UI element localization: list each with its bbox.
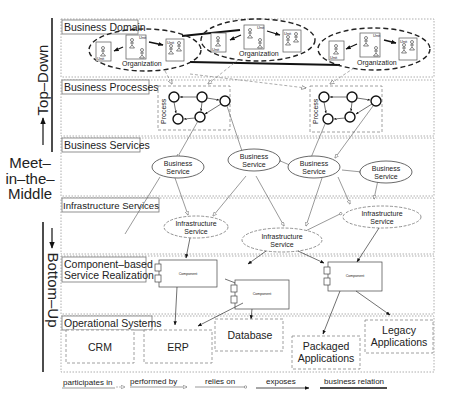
svg-text:Unit: Unit [400,39,408,44]
svg-text:Unit: Unit [373,33,381,38]
svg-text:Component: Component [346,274,365,278]
svg-text:Component: Component [253,292,272,296]
business-service-2: Business Service [228,149,280,171]
meet-in-middle-label-3: Middle [8,185,52,202]
layer-title-component-line2: Service Realization [64,269,154,281]
process-2: Process [310,86,382,132]
svg-text:Service: Service [302,168,325,175]
process-1: Process [158,86,230,130]
svg-text:Service: Service [242,161,265,168]
performed-by-edges [177,106,373,160]
svg-text:Service: Service [374,173,397,180]
svg-text:Service: Service [370,218,393,225]
svg-text:business relation: business relation [324,377,384,386]
infrastructure-service-2: Infrastructure Service [242,228,322,252]
svg-text:Unit: Unit [97,56,105,61]
svg-text:Business: Business [372,165,401,172]
svg-text:ERP: ERP [167,341,189,353]
svg-text:participates in: participates in [63,378,112,387]
svg-text:Unit: Unit [139,35,147,40]
component-1: Component [155,260,217,287]
infrastructure-services: Infrastructure Service Infrastructure Se… [164,206,421,252]
component-3: Component [324,262,382,291]
svg-text:Infrastructure: Infrastructure [175,220,216,227]
svg-text:Unit: Unit [330,55,338,60]
svg-text:Process: Process [160,98,167,124]
svg-text:relies on: relies on [205,377,235,386]
svg-text:Infrastructure: Infrastructure [261,233,302,240]
svg-text:Legacy: Legacy [382,324,417,336]
system-packaged-applications: Packaged Applications [292,336,360,369]
top-down-label: Top–Down [34,45,51,116]
svg-text:exposes: exposes [266,377,296,386]
legend-business-relation: business relation [320,377,387,388]
meet-in-middle-label-1: Meet– [9,154,51,171]
legend-participates-in: participates in [62,378,125,388]
svg-text:CRM: CRM [88,341,112,353]
organization-label: Organization [357,59,397,67]
svg-text:Service: Service [166,168,189,175]
organization-label: Organization [122,60,162,68]
svg-text:Service: Service [270,241,293,248]
svg-text:Applications: Applications [298,352,355,364]
architecture-diagram: Top–Down Meet– in–the– Middle Bottom–Up [0,0,453,404]
business-service-3: Business Service [288,156,340,178]
svg-text:Unit: Unit [257,25,265,30]
layer-title-operational-systems: Operational Systems [64,317,161,329]
svg-text:Service: Service [184,228,207,235]
svg-text:Database: Database [228,329,273,341]
svg-text:Business: Business [164,160,193,167]
layer-title-business-processes: Business Processes [64,81,159,93]
legend-performed-by: performed by [130,377,187,387]
svg-text:Business: Business [240,153,269,160]
layer-title-business-services: Business Services [64,139,150,151]
side-axis: Top–Down Meet– in–the– Middle Bottom–Up [5,18,62,372]
bottom-up-label: Bottom–Up [45,252,62,327]
legend-exposes: exposes [256,377,309,388]
system-erp: ERP [144,330,212,363]
organization-label: Organization [239,50,279,58]
infrastructure-service-3: Infrastructure Service [343,206,421,228]
organization-2: Unit Unit Unit Organization [201,19,315,61]
business-services: Business Service Business Service Busine… [152,149,412,183]
svg-text:Infrastructure: Infrastructure [361,210,402,217]
layer-title-business-domain: Business Domain [64,21,146,33]
svg-text:Applications: Applications [371,336,428,348]
organization-3: Unit Unit Unit Organization [318,28,430,70]
system-crm: CRM [66,330,134,363]
business-service-1: Business Service [152,156,204,178]
legend-relies-on: relies on [195,377,247,387]
svg-text:Unit: Unit [284,31,292,36]
infrastructure-service-1: Infrastructure Service [164,216,228,238]
svg-text:Unit: Unit [212,47,220,52]
svg-text:Unit: Unit [167,40,175,45]
business-service-4: Business Service [360,161,412,183]
svg-text:Packaged: Packaged [303,340,350,352]
svg-text:Business: Business [300,160,329,167]
svg-text:Component: Component [179,272,198,276]
system-database: Database [215,319,283,351]
system-legacy-applications: Legacy Applications [365,320,433,353]
svg-text:Process: Process [312,98,319,124]
svg-text:performed by: performed by [130,377,177,386]
components: Component Component Component [155,260,382,309]
legend: participates in performed by relies on e… [62,377,387,388]
